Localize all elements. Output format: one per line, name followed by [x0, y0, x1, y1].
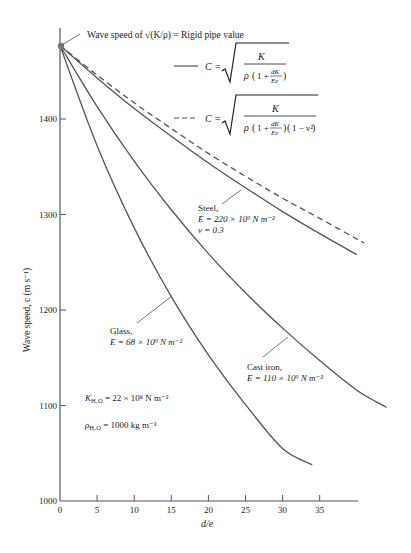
cast-iron-pointer [263, 337, 288, 357]
steel-pointer [222, 190, 241, 204]
steel-modulus: E = 220 × 10⁹ N m⁻² [197, 214, 275, 224]
steel-label: Steel, [198, 203, 218, 213]
y-axis-label: Wave speed, c (m s⁻¹) [22, 268, 33, 352]
frac-paren-close: ) [283, 70, 286, 82]
y-tick-label: 1000 [39, 496, 58, 506]
frac-dk: dK [271, 68, 280, 76]
cast-iron-modulus: E = 110 × 10⁹ N m⁻² [246, 373, 323, 383]
frac-ee: Ee [270, 77, 278, 85]
x-tick-label: 25 [241, 505, 251, 515]
frac2-paren: ( [252, 122, 256, 134]
frac2-dk: dK [271, 120, 280, 128]
x-tick-label: 30 [278, 505, 288, 515]
water-density: ρH₂O = 1000 kg m⁻³ [84, 420, 157, 431]
water-bulk-modulus: KH₂O = 22 × 10⁸ N m⁻² [84, 393, 169, 404]
x-axis-label: d/e [201, 518, 214, 529]
frac-num: K [257, 51, 266, 62]
y-tick-label: 1200 [39, 305, 58, 315]
frac2-paren-close: ) [283, 122, 286, 134]
x-tick-label: 10 [130, 505, 140, 515]
glass-pointer [137, 296, 172, 323]
legend-dashed-label: C = [205, 113, 221, 124]
x-tick-label: 20 [204, 505, 214, 515]
x-tick-label: 0 [58, 505, 63, 515]
frac-paren: ( [252, 70, 256, 82]
y-tick-label: 1300 [39, 210, 58, 220]
frac2-one-plus: 1 + [257, 123, 269, 133]
frac-rho: ρ [243, 70, 249, 81]
steel-poisson: ν = 0.3 [198, 225, 224, 235]
x-tick-label: 15 [167, 505, 177, 515]
cast-iron-label: Cast iron, [247, 362, 282, 372]
frac-one-plus: 1 + [257, 71, 269, 81]
frac2-ee: Ee [270, 129, 278, 137]
rigid-pointer-line [62, 34, 80, 45]
frac2-one-minus-nu: 1 − ν² [292, 123, 313, 133]
frac2-paren-nu-close: ) [312, 122, 315, 134]
frac2-rho: ρ [243, 122, 249, 133]
y-tick-label: 1400 [39, 114, 58, 124]
wave-speed-chart: 0510152025303510001100120013001400 Wave … [0, 0, 411, 553]
frac2-num: K [271, 103, 280, 114]
axes: 0510152025303510001100120013001400 [39, 28, 358, 515]
glass-modulus: E = 68 × 10⁹ N m⁻² [109, 337, 183, 347]
rigid-pipe-point [58, 43, 64, 49]
x-tick-label: 35 [315, 505, 325, 515]
glass-label: Glass, [110, 326, 132, 336]
frac2-paren-nu: ( [287, 122, 291, 134]
y-tick-label: 1100 [39, 401, 57, 411]
legend-solid-label: C = [205, 61, 221, 72]
legend: C = K ρ ( 1 + dK Ee ) C = K ρ ( 1 + dK E… [174, 43, 318, 137]
rigid-pipe-label: Wave speed of √(K/ρ) = Rigid pipe value [87, 30, 244, 41]
x-tick-label: 5 [95, 505, 100, 515]
